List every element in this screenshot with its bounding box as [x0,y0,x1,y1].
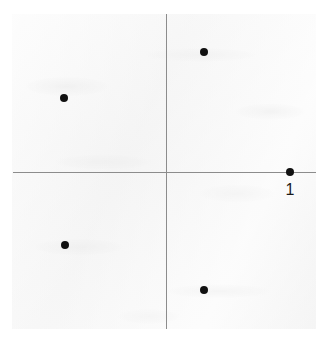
imaginary-axis-line [166,14,167,329]
complex-plane-figure: 1 [0,0,330,342]
real-axis-line [13,172,316,173]
data-point [200,286,208,294]
data-point [60,94,68,102]
x-axis-unit-label: 1 [286,182,295,198]
data-point [61,241,69,249]
data-point [286,168,294,176]
data-point [200,48,208,56]
